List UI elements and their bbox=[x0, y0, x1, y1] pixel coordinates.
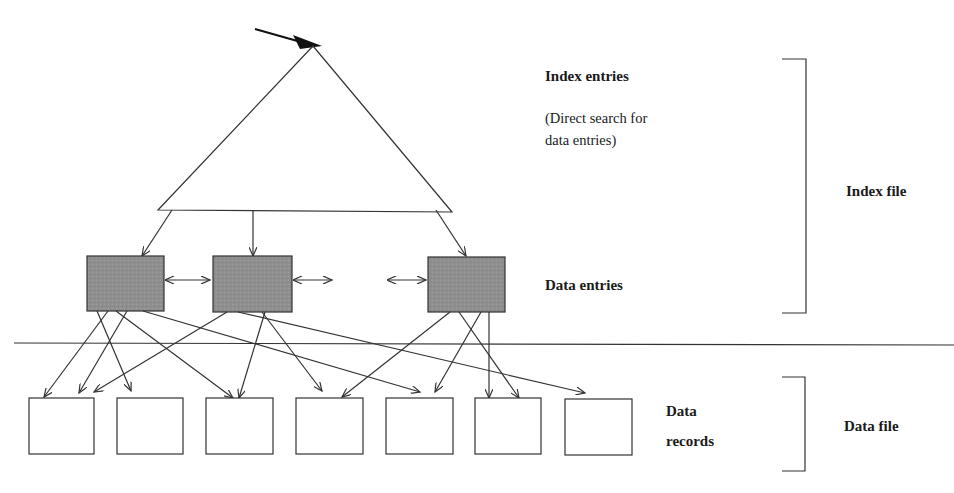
file-separator-line bbox=[14, 343, 954, 345]
index-file-bracket bbox=[782, 59, 806, 313]
pointer-e1-r1 bbox=[44, 311, 108, 397]
data-entry-page-3 bbox=[428, 257, 505, 312]
direct-search-note-line2: data entries) bbox=[545, 132, 616, 149]
index-entries-triangle bbox=[158, 46, 452, 212]
data-records-label-line2: records bbox=[666, 433, 714, 449]
pointer-e1-r5 bbox=[143, 311, 420, 392]
data-entry-page-2 bbox=[213, 256, 292, 312]
pointer-e1-r1b bbox=[79, 311, 127, 393]
data-record-4 bbox=[296, 398, 363, 454]
index-structure-diagram: Index entries (Direct search for data en… bbox=[0, 0, 954, 493]
data-file-bracket bbox=[782, 377, 805, 471]
data-record-7 bbox=[565, 399, 632, 455]
pointer-e1-r3 bbox=[116, 311, 233, 398]
data-record-5 bbox=[386, 398, 453, 454]
triangle-to-entry-3-arrow bbox=[436, 210, 466, 256]
index-entries-label: Index entries bbox=[545, 68, 629, 84]
data-record-3 bbox=[206, 398, 273, 454]
pointer-e1-r2 bbox=[97, 311, 131, 391]
root-entry-arrow bbox=[255, 29, 322, 49]
pointer-e3-r5 bbox=[435, 312, 481, 392]
data-file-label: Data file bbox=[844, 418, 899, 434]
pointer-e2-r3 bbox=[239, 312, 265, 398]
pointer-e2-r4 bbox=[262, 312, 322, 391]
data-record-1 bbox=[29, 398, 94, 454]
data-entries-label: Data entries bbox=[545, 277, 623, 293]
data-records-label-line1: Data bbox=[666, 403, 697, 419]
pointer-e3-r4 bbox=[342, 312, 450, 397]
data-record-6 bbox=[475, 398, 541, 454]
data-entry-page-1 bbox=[87, 256, 164, 311]
index-file-label: Index file bbox=[846, 183, 907, 199]
triangle-to-entry-1-arrow bbox=[142, 210, 172, 256]
direct-search-note-line1: (Direct search for bbox=[545, 110, 647, 127]
pointer-e2-r7 bbox=[238, 312, 585, 393]
data-record-2 bbox=[117, 398, 183, 454]
